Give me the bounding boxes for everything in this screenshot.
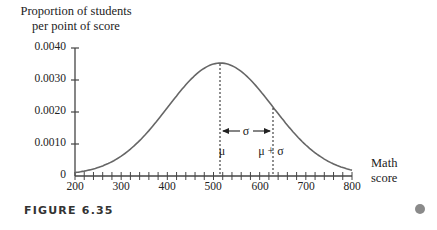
bullet-dot-icon <box>415 204 425 214</box>
mu-label: μ <box>219 144 225 158</box>
chart-plot: σ μ μ + σ <box>0 0 437 230</box>
figure-caption: FIGURE 6.35 <box>24 204 114 217</box>
arrowhead-left-icon <box>222 128 229 134</box>
normal-curve <box>75 63 352 173</box>
arrowhead-right-icon <box>264 128 271 134</box>
mu-plus-sigma-label: μ + σ <box>258 144 284 158</box>
sigma-label: σ <box>243 124 250 138</box>
